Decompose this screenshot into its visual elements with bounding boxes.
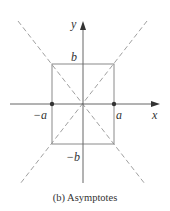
label-neg-b: −b <box>66 150 80 164</box>
hyperbola-asymptotes-diagram: y x b −b a −a (b) Asymptotes <box>0 0 170 211</box>
label-a: a <box>116 108 122 122</box>
asymptote-positive <box>18 21 145 184</box>
label-neg-a: −a <box>33 108 47 122</box>
point-neg-a <box>50 102 54 106</box>
label-b: b <box>71 50 77 64</box>
y-axis-arrow-icon <box>80 21 86 30</box>
point-a <box>112 102 116 106</box>
x-axis-label: x <box>151 108 158 122</box>
y-axis-label: y <box>70 17 77 31</box>
figure-caption: (b) Asymptotes <box>53 192 117 204</box>
x-axis-arrow-icon <box>151 101 160 107</box>
